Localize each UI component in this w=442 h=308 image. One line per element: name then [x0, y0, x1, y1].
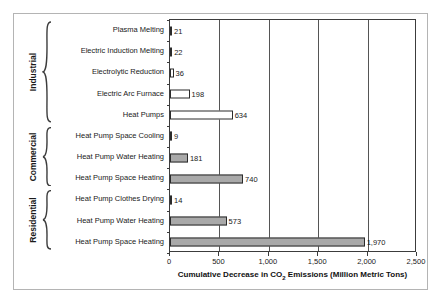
bar-value-label: 740 [243, 174, 258, 183]
category-label: Heat Pump Water Heating [77, 216, 167, 225]
category-label: Electric Induction Melting [81, 46, 167, 55]
plot-area: 2122361986349181740145731,970 [169, 19, 416, 252]
category-label: Heat Pump Clothes Drying [75, 194, 167, 203]
bar[interactable] [170, 217, 227, 226]
x-tick-label: 2,500 [407, 257, 426, 266]
category-label-row[interactable]: Electric Arc Furnace [54, 83, 167, 104]
x-tick [317, 252, 318, 256]
bar[interactable] [170, 238, 365, 247]
bar-row[interactable]: 634 [170, 105, 415, 126]
x-tick-label: 1,500 [308, 257, 327, 266]
bar-value-label: 9 [172, 132, 178, 141]
chart-figure: IndustrialCommercialResidential Plasma M… [13, 13, 428, 290]
category-label-column: Plasma MeltingElectric Induction Melting… [54, 19, 167, 252]
x-tick [218, 252, 219, 256]
x-tick-label: 500 [212, 257, 225, 266]
category-label-row[interactable]: Plasma Melting [54, 19, 167, 40]
bar-row[interactable]: 181 [170, 147, 415, 168]
x-tick [268, 252, 269, 256]
bar-row[interactable]: 36 [170, 62, 415, 83]
group-label-text: Commercial [28, 132, 38, 181]
category-label: Heat Pump Space Heating [75, 237, 167, 246]
category-label-row[interactable]: Electric Induction Melting [54, 40, 167, 61]
category-label-row[interactable]: Heat Pumps [54, 104, 167, 125]
category-label-row[interactable]: Heat Pump Space Heating [54, 231, 167, 252]
category-label-row[interactable]: Heat Pump Clothes Drying [54, 188, 167, 209]
category-label: Plasma Melting [113, 25, 167, 34]
group-label-commercial: Commercial [25, 127, 41, 187]
category-label: Heat Pump Space Heating [75, 173, 167, 182]
bar[interactable] [170, 153, 188, 162]
category-label: Heat Pumps [123, 110, 167, 119]
x-tick [367, 252, 368, 256]
group-brace [42, 190, 52, 250]
bar-value-label: 181 [188, 153, 203, 162]
x-tick [416, 252, 417, 256]
group-label-text: Residential [28, 198, 38, 243]
x-axis-title: Cumulative Decrease in CO2 Emissions (Mi… [169, 270, 416, 281]
bar[interactable] [170, 111, 233, 120]
group-brace [42, 21, 52, 123]
category-label-row[interactable]: Heat Pump Space Cooling [54, 125, 167, 146]
x-tick [169, 252, 170, 256]
bar-row[interactable]: 21 [170, 20, 415, 41]
bar-value-label: 14 [172, 195, 182, 204]
group-brace [42, 127, 52, 187]
category-label-row[interactable]: Heat Pump Water Heating [54, 210, 167, 231]
category-label: Electrolytic Reduction [92, 67, 167, 76]
bar-value-label: 198 [190, 90, 205, 99]
group-label-industrial: Industrial [25, 21, 41, 123]
bar-row[interactable]: 14 [170, 189, 415, 210]
bar-row[interactable]: 9 [170, 126, 415, 147]
bar-row[interactable]: 1,970 [170, 232, 415, 253]
bar-value-label: 36 [174, 68, 184, 77]
bar-row[interactable]: 198 [170, 84, 415, 105]
bar-value-label: 634 [233, 111, 248, 120]
group-label-text: Industrial [28, 53, 38, 91]
bar-rows: 2122361986349181740145731,970 [170, 20, 415, 251]
bar-row[interactable]: 573 [170, 211, 415, 232]
x-tick-label: 0 [167, 257, 171, 266]
category-label: Electric Arc Furnace [97, 89, 167, 98]
bar-value-label: 1,970 [365, 238, 386, 247]
bar-row[interactable]: 740 [170, 168, 415, 189]
bar[interactable] [170, 174, 243, 183]
bar-value-label: 573 [227, 217, 242, 226]
category-label-row[interactable]: Electrolytic Reduction [54, 61, 167, 82]
x-tick-label: 2,000 [357, 257, 376, 266]
bar[interactable] [170, 90, 190, 99]
bar-row[interactable]: 22 [170, 41, 415, 62]
category-label-row[interactable]: Heat Pump Water Heating [54, 146, 167, 167]
bar-value-label: 22 [172, 47, 182, 56]
category-label: Heat Pump Water Heating [77, 152, 167, 161]
category-label-row[interactable]: Heat Pump Space Heating [54, 167, 167, 188]
x-tick-label: 1,000 [258, 257, 277, 266]
category-label: Heat Pump Space Cooling [76, 131, 167, 140]
bar-value-label: 21 [172, 26, 182, 35]
group-label-residential: Residential [25, 190, 41, 250]
